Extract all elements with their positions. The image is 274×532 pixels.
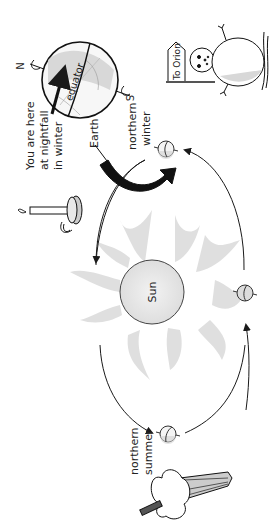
northern-winter-line-2: winter (140, 111, 153, 146)
earth-label: Earth (88, 118, 101, 148)
sign-label: To Orion (172, 43, 182, 81)
north-label: N (15, 62, 26, 69)
candle-icon (18, 196, 82, 232)
earth-northern-winter (154, 141, 178, 159)
northern-summer-label: northern summer (128, 427, 155, 475)
northern-winter-line-1: northern (126, 102, 139, 150)
northern-summer-line-2: summer (142, 429, 155, 475)
northern-summer-line-1: northern (128, 427, 141, 475)
northern-winter-label: northern winter (126, 102, 153, 150)
orbit-diagram: Sun (0, 0, 274, 532)
you-are-here-line-2: at nightfall (38, 110, 51, 170)
south-label: S (125, 95, 136, 101)
ice-cream-icon (140, 470, 232, 519)
snowman-icon: To Orion (166, 24, 268, 96)
you-are-here-line-3: in winter (52, 121, 65, 170)
sun-label: Sun (146, 282, 159, 303)
earth-northern-summer (156, 426, 180, 444)
sun: Sun (120, 260, 184, 324)
you-are-here-line-1: You are here (24, 101, 37, 171)
